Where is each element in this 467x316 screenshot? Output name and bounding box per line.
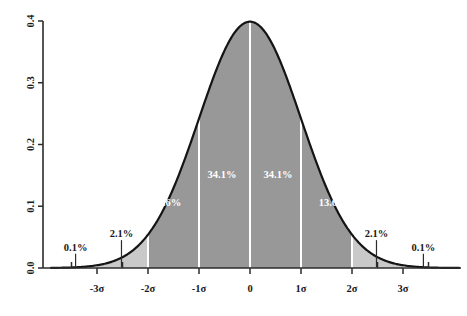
band-right-center <box>250 22 301 268</box>
label-pct-0-1-right: 0.1% <box>412 242 436 253</box>
label-pct-13-6-right: 13.6% <box>319 197 348 208</box>
y-axis-tick-labels: 0.00.10.20.30.4 <box>25 14 36 275</box>
x-axis-tick-labels: -3σ-2σ-1σ01σ2σ3σ <box>90 283 409 294</box>
x-tick-label-1: -2σ <box>141 283 156 294</box>
x-tick-label-5: 2σ <box>347 283 358 294</box>
y-tick-label-0: 0.0 <box>25 261 36 274</box>
normal-distribution-chart: 0.00.10.20.30.4 -3σ-2σ-1σ01σ2σ3σ 13.6%34… <box>0 0 467 316</box>
y-tick-label-2: 0.2 <box>25 138 36 151</box>
x-tick-label-0: -3σ <box>90 283 105 294</box>
x-tick-label-3: 0 <box>247 283 252 294</box>
label-pct-0-1-left: 0.1% <box>64 242 88 253</box>
label-pct-2-1-left: 2.1% <box>110 228 134 239</box>
y-tick-label-3: 0.3 <box>25 76 36 89</box>
y-tick-label-1: 0.1 <box>25 200 36 213</box>
x-tick-label-4: 1σ <box>296 283 307 294</box>
chart-svg: 0.00.10.20.30.4 -3σ-2σ-1σ01σ2σ3σ 13.6%34… <box>0 0 467 316</box>
x-tick-label-6: 3σ <box>398 283 409 294</box>
x-tick-label-2: -1σ <box>192 283 207 294</box>
label-pct-34-1-right: 34.1% <box>264 169 293 180</box>
y-tick-label-4: 0.4 <box>25 14 36 28</box>
label-pct-2-1-right: 2.1% <box>365 228 389 239</box>
band-left-center <box>199 22 250 268</box>
label-pct-34-1-left: 34.1% <box>208 169 237 180</box>
label-pct-13-6-left: 13.6% <box>152 197 181 208</box>
